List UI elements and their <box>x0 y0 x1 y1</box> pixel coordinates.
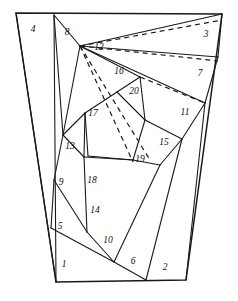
region-label-1: 1 <box>62 259 67 269</box>
region-label-10: 10 <box>103 235 113 245</box>
region-label-19: 19 <box>135 154 145 164</box>
region-label-18: 18 <box>87 175 97 185</box>
dashed-guide-edge <box>80 46 150 160</box>
region-label-14: 14 <box>90 205 100 215</box>
outer-boundary-path <box>16 13 222 282</box>
region-label-9: 9 <box>59 177 64 187</box>
outer-boundary-group <box>16 13 222 282</box>
interior-edge <box>54 15 56 282</box>
region-label-8: 8 <box>65 27 70 37</box>
region-label-20: 20 <box>129 86 139 96</box>
interior-edge <box>54 15 63 135</box>
interior-edge <box>51 180 54 228</box>
region-label-6: 6 <box>131 256 136 266</box>
interior-edge <box>84 157 87 232</box>
polygon-subdivision-figure: 1234567891011121314151617181920 <box>0 0 238 301</box>
interior-edge <box>85 113 88 156</box>
region-label-16: 16 <box>114 66 124 76</box>
interior-edge <box>16 13 56 282</box>
region-label-15: 15 <box>159 137 169 147</box>
interior-edge <box>63 46 80 135</box>
region-label-3: 3 <box>203 29 209 39</box>
interior-edge <box>80 46 140 77</box>
region-label-7: 7 <box>198 68 204 78</box>
interior-edge <box>145 120 182 139</box>
diagram-root: 1234567891011121314151617181920 <box>0 0 238 301</box>
region-label-11: 11 <box>181 107 190 117</box>
interior-edge <box>117 92 145 120</box>
interior-edge <box>140 77 145 120</box>
region-label-5: 5 <box>58 221 63 231</box>
region-label-12: 12 <box>94 42 104 52</box>
interior-edge <box>80 14 222 46</box>
interior-edge <box>186 103 205 280</box>
region-label-17: 17 <box>88 108 99 118</box>
dashed-guide-edge <box>80 46 133 162</box>
region-label-13: 13 <box>65 141 75 151</box>
interior-edge <box>84 113 85 157</box>
interior-edge <box>114 165 160 262</box>
region-label-2: 2 <box>163 262 168 272</box>
region-label-4: 4 <box>31 24 36 34</box>
